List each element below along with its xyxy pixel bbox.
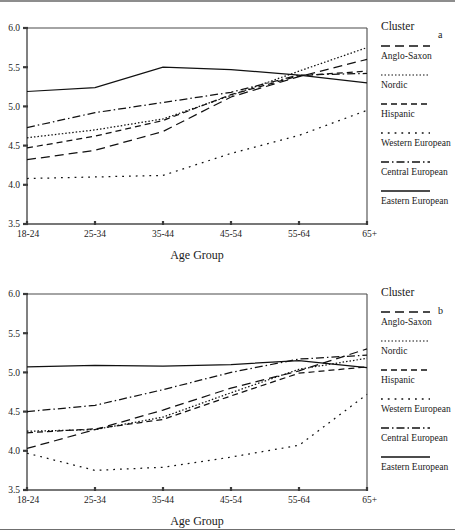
y-ticks-a: 3.54.04.55.05.56.0 — [8, 23, 28, 229]
y-ticks-b: 3.54.04.55.05.56.0 — [8, 289, 28, 495]
panel-a: 3.54.04.55.05.56.0 18-2425-3435-4445-545… — [0, 0, 455, 266]
chart-a-plot: 3.54.04.55.05.56.0 18-2425-3435-4445-545… — [8, 23, 377, 239]
x-tick-label: 18-24 — [17, 229, 39, 239]
series-group-a — [27, 48, 367, 179]
y-tick-label: 5.0 — [8, 102, 20, 112]
x-axis-title-a: Age Group — [170, 248, 224, 262]
y-tick-label: 3.5 — [8, 219, 20, 229]
figure-root: 3.54.04.55.05.56.0 18-2425-3435-4445-545… — [0, 0, 455, 532]
legend-label-anglo-saxon: Anglo-Saxon — [381, 317, 432, 327]
legend-label-nordic: Nordic — [381, 80, 407, 90]
x-tick-label: 65+ — [362, 495, 377, 505]
y-tick-label: 4.5 — [8, 407, 20, 417]
legend-label-western-european: Western European — [381, 138, 451, 148]
series-line-nordic — [27, 358, 367, 431]
series-line-anglo-saxon — [27, 59, 367, 159]
series-line-central-european — [27, 355, 367, 411]
y-tick-label: 4.0 — [8, 180, 20, 190]
legend-label-hispanic: Hispanic — [381, 109, 415, 119]
legend-label-eastern-european: Eastern European — [381, 462, 449, 472]
y-tick-label: 3.5 — [8, 485, 20, 495]
y-tick-label: 5.5 — [8, 63, 20, 73]
legend-label-western-european: Western European — [381, 404, 451, 414]
series-line-nordic — [27, 48, 367, 138]
x-tick-label: 45-54 — [220, 495, 242, 505]
legend-entries-a: Anglo-SaxonNordicHispanicWestern Europea… — [381, 46, 451, 206]
x-tick-label: 55-64 — [288, 495, 310, 505]
legend-title-a: Cluster — [381, 20, 414, 32]
legend-label-anglo-saxon: Anglo-Saxon — [381, 51, 432, 61]
series-line-hispanic — [27, 367, 367, 433]
x-tick-label: 35-44 — [152, 495, 174, 505]
chart-b-plot: 3.54.04.55.05.56.0 18-2425-3435-4445-545… — [8, 289, 377, 505]
bottom-rule — [0, 529, 455, 530]
series-group-b — [27, 349, 367, 471]
x-tick-label: 65+ — [362, 229, 377, 239]
legend-label-hispanic: Hispanic — [381, 375, 415, 385]
x-tick-label: 35-44 — [152, 229, 174, 239]
y-tick-label: 4.0 — [8, 446, 20, 456]
legend-entries-b: Anglo-SaxonNordicHispanicWestern Europea… — [381, 312, 451, 472]
x-tick-label: 55-64 — [288, 229, 310, 239]
x-tick-label: 25-34 — [84, 229, 106, 239]
series-line-central-european — [27, 73, 367, 127]
y-tick-label: 4.5 — [8, 141, 20, 151]
panel-letter-b: b — [438, 305, 443, 316]
x-tick-label: 45-54 — [220, 229, 242, 239]
panel-letter-a: a — [438, 29, 443, 40]
legend-title-b: Cluster — [381, 286, 414, 298]
chart-b-canvas: 3.54.04.55.05.56.0 18-2425-3435-4445-545… — [0, 266, 455, 532]
legend-label-eastern-european: Eastern European — [381, 196, 449, 206]
y-tick-label: 6.0 — [8, 289, 20, 299]
series-line-western-european — [27, 394, 367, 470]
legend-a: Cluster Anglo-SaxonNordicHispanicWestern… — [381, 20, 451, 206]
legend-label-central-european: Central European — [381, 433, 448, 443]
series-line-hispanic — [27, 71, 367, 148]
chart-a-canvas: 3.54.04.55.05.56.0 18-2425-3435-4445-545… — [0, 0, 455, 266]
series-line-eastern-european — [27, 67, 367, 91]
series-line-anglo-saxon — [27, 349, 367, 449]
x-tick-label: 25-34 — [84, 495, 106, 505]
legend-label-central-european: Central European — [381, 167, 448, 177]
legend-label-nordic: Nordic — [381, 346, 407, 356]
x-axis-title-b: Age Group — [170, 514, 224, 528]
y-tick-label: 6.0 — [8, 23, 20, 33]
y-tick-label: 5.0 — [8, 368, 20, 378]
panel-b: 3.54.04.55.05.56.0 18-2425-3435-4445-545… — [0, 266, 455, 532]
x-tick-label: 18-24 — [17, 495, 39, 505]
series-line-western-european — [27, 110, 367, 178]
y-tick-label: 5.5 — [8, 329, 20, 339]
